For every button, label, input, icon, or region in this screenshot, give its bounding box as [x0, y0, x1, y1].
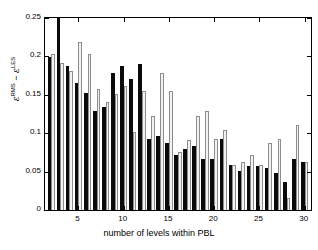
- bar-light-13: [151, 116, 155, 210]
- bar-light-11: [133, 132, 137, 210]
- x-tick-label-15: 15: [153, 214, 183, 223]
- x-tick-mark: [169, 206, 170, 210]
- plot-area: [44, 17, 312, 211]
- x-tick-mark-top: [305, 18, 306, 22]
- y-tick-mark: [45, 133, 49, 134]
- epsilon-symbol-1: ε: [11, 96, 21, 101]
- bar-light-2: [51, 54, 55, 210]
- bar-light-18: [196, 116, 200, 210]
- minus-sign: −: [11, 73, 21, 83]
- bar-light-26: [268, 143, 272, 210]
- y-tick-mark: [45, 18, 49, 19]
- superscript-les: LES: [10, 57, 16, 68]
- y-tick-mark-right: [307, 95, 311, 96]
- bar-light-7: [97, 89, 101, 210]
- y-tick-mark-right: [307, 56, 311, 57]
- epsilon-symbol-2: ε: [11, 68, 21, 73]
- bar-light-6: [88, 54, 92, 210]
- y-tick-label-0.05: 0.05: [1, 167, 41, 175]
- bar-light-15: [169, 91, 173, 210]
- y-tick-mark-right: [307, 133, 311, 134]
- x-tick-mark-top: [259, 18, 260, 22]
- y-tick-mark-right: [307, 172, 311, 173]
- x-tick-mark-top: [214, 18, 215, 22]
- bar-light-29: [296, 125, 300, 210]
- bar-light-25: [259, 165, 263, 210]
- y-tick-mark-right: [307, 18, 311, 19]
- y-tick-mark: [45, 56, 49, 57]
- y-tick-mark: [45, 210, 49, 211]
- bar-light-4: [69, 71, 73, 210]
- y-tick-label-0: 0: [1, 205, 41, 213]
- x-tick-mark-top: [78, 18, 79, 22]
- bar-light-16: [178, 152, 182, 210]
- bar-light-24: [250, 155, 254, 210]
- bar-light-21: [223, 130, 227, 210]
- bar-light-8: [106, 102, 110, 210]
- figure-bar-chart: 00.050.10.150.20.25 51015202530 number o…: [0, 0, 318, 250]
- x-axis-label: number of levels within PBL: [0, 228, 318, 238]
- bar-light-19: [205, 111, 209, 210]
- bar-light-9: [115, 94, 119, 210]
- x-tick-label-20: 20: [198, 214, 228, 223]
- x-tick-mark: [124, 206, 125, 210]
- bar-light-14: [160, 73, 164, 210]
- bar-light-28: [287, 198, 291, 210]
- superscript-rms: RMS: [10, 83, 16, 96]
- y-tick-mark: [45, 95, 49, 96]
- bars-layer: [45, 18, 311, 210]
- x-tick-mark: [259, 206, 260, 210]
- bar-light-17: [187, 140, 191, 210]
- bar-light-27: [278, 139, 282, 210]
- x-tick-mark: [305, 206, 306, 210]
- x-tick-label-5: 5: [62, 214, 92, 223]
- bar-light-10: [124, 86, 128, 210]
- bar-light-12: [142, 91, 146, 210]
- y-tick-mark-right: [307, 210, 311, 211]
- x-tick-mark: [214, 206, 215, 210]
- bar-light-30: [305, 162, 309, 210]
- bar-light-22: [232, 165, 236, 210]
- bar-light-23: [241, 162, 245, 210]
- x-tick-mark-top: [124, 18, 125, 22]
- x-tick-mark: [78, 206, 79, 210]
- y-axis-label: εRMS − εLES: [5, 19, 19, 139]
- bar-light-20: [214, 139, 218, 210]
- y-tick-mark: [45, 172, 49, 173]
- bar-light-5: [78, 42, 82, 210]
- x-tick-mark-top: [169, 18, 170, 22]
- x-tick-label-10: 10: [108, 214, 138, 223]
- x-tick-label-25: 25: [243, 214, 273, 223]
- x-tick-label-30: 30: [289, 214, 318, 223]
- bar-light-3: [60, 63, 64, 210]
